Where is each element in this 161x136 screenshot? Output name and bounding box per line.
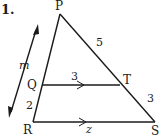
segment-rs (33, 118, 155, 126)
segment-qt (42, 81, 120, 89)
vertex-r-label: R (23, 123, 33, 136)
length-pt-label: 5 (96, 36, 103, 49)
length-qt-label: 3 (71, 70, 78, 83)
length-qr-label: 2 (26, 99, 33, 112)
triangle-diagram: 1. m P Q R T S 5 3 3 2 z (0, 0, 161, 136)
side-ps (60, 14, 155, 122)
arrow-up-icon (33, 24, 39, 35)
length-rs-label: z (85, 123, 92, 136)
arrow-down-icon (8, 106, 13, 118)
vertex-t-label: T (123, 73, 131, 87)
problem-number: 1. (1, 2, 15, 17)
length-ts-label: 3 (147, 92, 154, 105)
vertex-s-label: S (151, 124, 159, 136)
label-m: m (19, 59, 29, 72)
vertex-q-label: Q (27, 78, 37, 92)
triangle-prs (33, 14, 155, 122)
vertex-p-label: P (55, 0, 63, 13)
